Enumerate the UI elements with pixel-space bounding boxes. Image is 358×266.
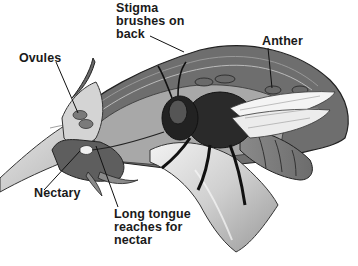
bee-flower-diagram: Stigma brushes on back Anther Ovules Nec…	[0, 0, 358, 266]
label-anther: Anther	[262, 35, 303, 48]
label-ovules: Ovules	[19, 52, 61, 65]
ovule-2	[79, 120, 93, 129]
ovary	[62, 82, 103, 146]
ovules-leader-line	[56, 62, 78, 113]
label-stigma: Stigma brushes on back	[116, 2, 184, 41]
ovule-1	[73, 111, 87, 120]
label-long-tongue: Long tongue reaches for nectar	[114, 208, 191, 247]
label-nectary: Nectary	[34, 187, 81, 200]
nectary	[80, 146, 93, 155]
bee-eye	[169, 100, 187, 124]
